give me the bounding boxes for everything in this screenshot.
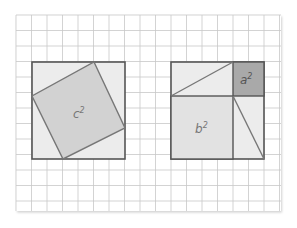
pythagorean-diagram: c2 a2 b2 xyxy=(0,0,297,228)
left-square-c-squared: c2 xyxy=(32,62,125,159)
right-square-a-b-squared: a2 b2 xyxy=(171,62,264,159)
